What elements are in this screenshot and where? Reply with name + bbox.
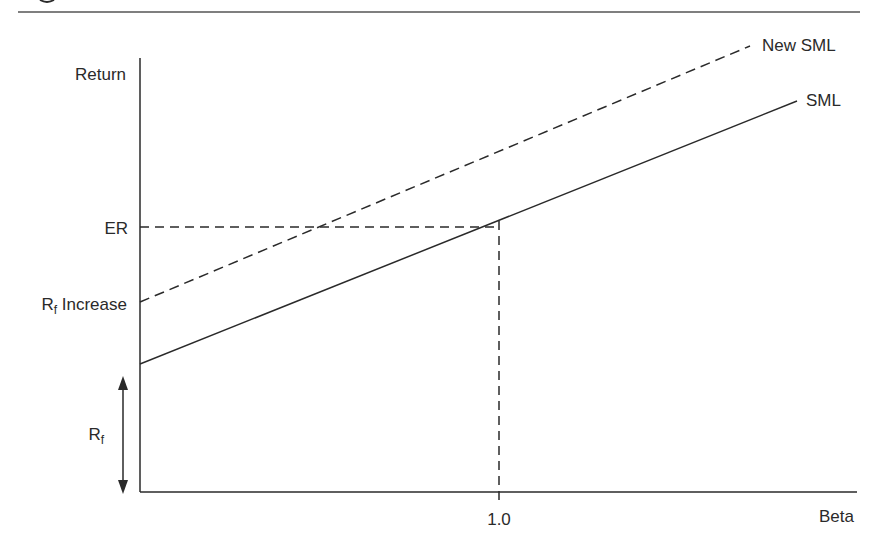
rf-label: Rf (88, 425, 104, 447)
sml-chart: Return Beta ER 1.0 Rf Increase New SML S… (0, 0, 877, 547)
beta-tick-label: 1.0 (487, 510, 511, 529)
y-axis-label: Return (75, 65, 126, 84)
x-axis-label: Beta (819, 507, 855, 526)
new-sml-label: New SML (762, 36, 836, 55)
new-sml-line (140, 46, 750, 302)
er-label: ER (104, 219, 128, 238)
sml-line (140, 101, 797, 364)
clipped-heading-glyph (40, 0, 54, 2)
rf-increase-label: Rf Increase (41, 295, 127, 317)
sml-label: SML (806, 91, 841, 110)
rf-double-arrow-icon (118, 376, 128, 494)
